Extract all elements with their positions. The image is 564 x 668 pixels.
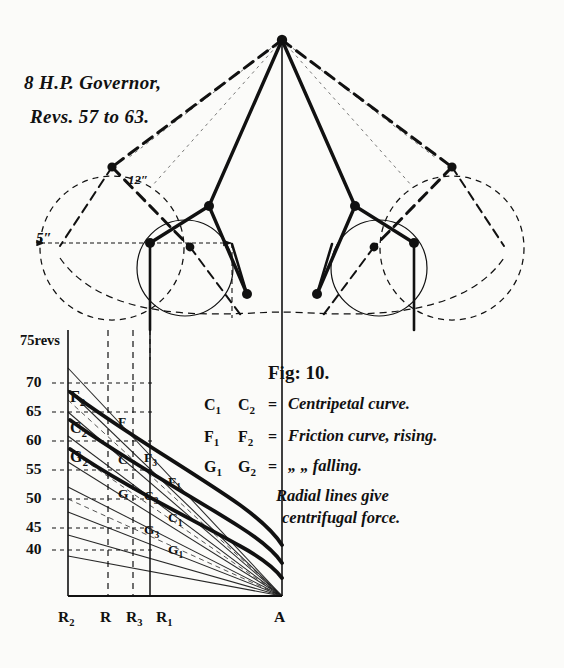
- legend-sym-g1: G1: [204, 458, 222, 478]
- y-tick-50: 50: [26, 489, 42, 507]
- legend-text-falling: „ „ falling.: [288, 456, 362, 476]
- legend-text-friction-rising: Friction curve, rising.: [288, 426, 437, 446]
- dimension-label-12in: 12″: [128, 172, 148, 188]
- legend-sym-c1: C1: [204, 396, 221, 416]
- dimension-label-5in: 5″: [36, 230, 52, 247]
- figure-title-line2: Revs. 57 to 63.: [30, 106, 149, 128]
- legend-text-centripetal: Centripetal curve.: [288, 394, 410, 414]
- curve-label-C: C: [118, 452, 128, 468]
- y-tick-40: 40: [26, 540, 42, 558]
- legend-sym-c2: C2: [238, 396, 255, 416]
- legend-sym-g2: G2: [238, 458, 256, 478]
- legend-eq-2: =: [268, 458, 277, 476]
- y-tick-70: 70: [26, 373, 42, 391]
- curve-label-F: F: [118, 414, 126, 430]
- y-tick-45: 45: [26, 518, 42, 536]
- legend-note-line1: Radial lines give: [276, 486, 389, 506]
- figure-canvas: 8 H.P. Governor, Revs. 57 to 63. 5″ 12″ …: [0, 0, 564, 668]
- x-tick-R2: R2: [58, 608, 74, 628]
- curve-label-G1: G1: [168, 542, 183, 560]
- y-tick-60: 60: [26, 431, 42, 449]
- y-axis-top-label: 75revs: [20, 332, 60, 349]
- legend-sym-f2: F2: [238, 428, 253, 448]
- y-tick-65: 65: [26, 402, 42, 420]
- x-tick-R3: R3: [126, 608, 142, 628]
- curve-label-C3: C3: [144, 488, 159, 506]
- y-tick-55: 55: [26, 460, 42, 478]
- curve-label-G: G: [118, 486, 129, 502]
- curve-label-F2: F2: [70, 388, 85, 408]
- curve-label-G3: G3: [144, 522, 159, 540]
- curve-label-F1: F1: [168, 474, 181, 492]
- curve-label-C2: C2: [70, 419, 87, 439]
- curve-label-F3: F3: [144, 450, 157, 468]
- figure-title-line1: 8 H.P. Governor,: [24, 72, 161, 94]
- legend-eq-0: =: [268, 396, 277, 414]
- curve-label-G2: G2: [70, 448, 88, 468]
- x-tick-R: R: [100, 608, 111, 628]
- x-apex-A: A: [274, 608, 285, 626]
- legend-eq-1: =: [268, 428, 277, 446]
- legend-sym-f1: F1: [204, 428, 219, 448]
- x-tick-R1: R1: [156, 608, 172, 628]
- curve-label-C1: C1: [168, 510, 183, 528]
- diagram-vector-layer: [0, 0, 564, 668]
- figure-number: Fig: 10.: [268, 362, 329, 384]
- legend-note-line2: centrifugal force.: [282, 508, 400, 528]
